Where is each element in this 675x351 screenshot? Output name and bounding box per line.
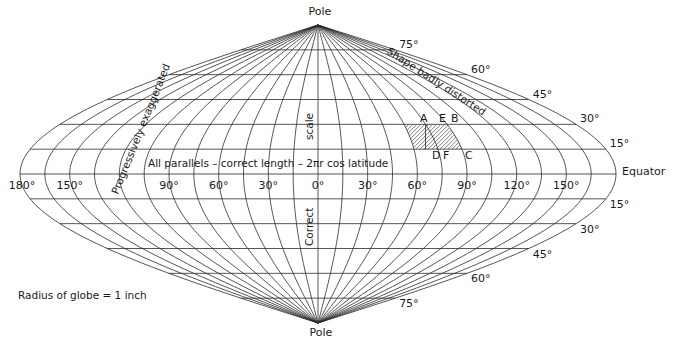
- hatch-stroke: [440, 124, 465, 149]
- point-label-d: D: [432, 149, 440, 162]
- meridian-label: 150°: [553, 179, 580, 192]
- equator-label: Equator: [622, 165, 666, 178]
- hatch-stroke: [460, 124, 485, 149]
- annotation-radius-of-globe: Radius of globe = 1 inch: [18, 289, 147, 301]
- hatch-stroke: [432, 124, 457, 149]
- meridian-label: 60°: [408, 179, 428, 192]
- hatch-stroke: [404, 124, 429, 149]
- annotation-correct: Correct: [303, 208, 315, 246]
- annotation-shape-badly-distorted: Shape badly distorted: [385, 45, 488, 118]
- hatch-stroke: [436, 124, 461, 149]
- hatch-stroke: [456, 124, 481, 149]
- pole-label-bottom: Pole: [310, 326, 333, 339]
- parallel-label: 15°: [610, 137, 630, 150]
- meridian-label: 30°: [358, 179, 378, 192]
- hatch-stroke: [396, 124, 421, 149]
- sinusoidal-projection-diagram: Pole Pole Equator 180°150°90°60°30°0°30°…: [0, 0, 675, 351]
- parallel-label: 15°: [610, 198, 630, 211]
- annotation-progressively-exaggerated: Progressively exaggerated: [109, 62, 172, 196]
- meridian-label: 150°: [56, 179, 83, 192]
- meridian-label: 90°: [457, 179, 477, 192]
- parallel-label: 45°: [533, 88, 553, 101]
- parallel-label: 60°: [471, 272, 491, 285]
- annotation-parallels-correct-length: All parallels – correct length – 2πr cos…: [148, 157, 388, 169]
- parallel-label: 60°: [471, 63, 491, 76]
- meridian-label: 60°: [209, 179, 229, 192]
- parallel-label: 75°: [399, 297, 419, 310]
- pole-label-top: Pole: [309, 5, 332, 18]
- map-canvas: Pole Pole Equator 180°150°90°60°30°0°30°…: [0, 0, 675, 351]
- meridian-label: 90°: [159, 179, 179, 192]
- hatch-stroke: [416, 124, 441, 149]
- hatch-stroke: [492, 124, 517, 149]
- hatch-stroke: [384, 124, 409, 149]
- hatch-stroke: [420, 124, 445, 149]
- meridian-label: 180°: [9, 179, 36, 192]
- hatch-stroke: [408, 124, 433, 149]
- hatch-stroke: [488, 124, 513, 149]
- hatch-stroke: [388, 124, 413, 149]
- annotation-scale: scale: [303, 113, 315, 140]
- hatched-region-abcd: [380, 124, 521, 149]
- point-label-b: B: [451, 112, 459, 125]
- parallel-label: 75°: [399, 38, 419, 51]
- point-label-f: F: [443, 149, 449, 162]
- meridian-labels: 180°150°90°60°30°0°30°60°90°120°150°: [9, 179, 580, 192]
- parallel-label: 30°: [580, 223, 600, 236]
- hatch-stroke: [400, 124, 425, 149]
- hatch-stroke: [428, 124, 453, 149]
- point-label-c: C: [465, 149, 473, 162]
- point-label-e: E: [439, 112, 446, 125]
- meridian-label: 0°: [312, 179, 325, 192]
- hatch-stroke: [476, 124, 501, 149]
- hatch-stroke: [496, 124, 521, 149]
- point-label-a: A: [420, 112, 428, 125]
- parallel-label: 45°: [533, 248, 553, 261]
- hatch-stroke: [464, 124, 489, 149]
- hatch-stroke: [444, 124, 469, 149]
- hatch-stroke: [484, 124, 509, 149]
- parallel-label: 30°: [580, 112, 600, 125]
- meridian-label: 120°: [503, 179, 530, 192]
- meridian-label: 30°: [259, 179, 279, 192]
